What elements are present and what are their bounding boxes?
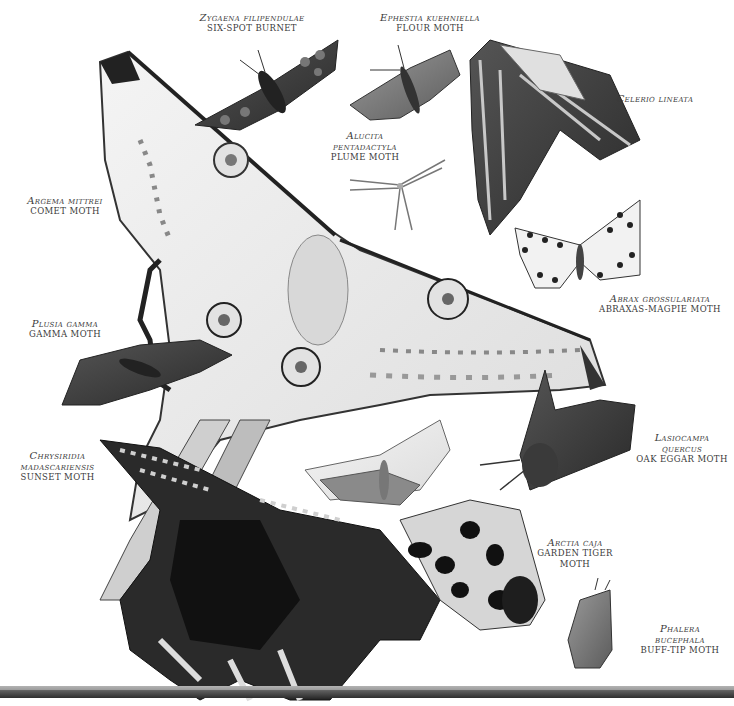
label-celerio-lineata: Celerio lineata xyxy=(595,93,715,104)
common-name: GAMMA MOTH xyxy=(15,329,115,340)
scientific-name: Alucita xyxy=(300,130,430,141)
label-argema-mittrei: Argema mittrei COMET MOTH xyxy=(10,195,120,217)
plume-moth xyxy=(350,160,445,230)
six-spot-burnet-moth xyxy=(195,40,338,130)
decorative-border-highlight xyxy=(0,686,734,690)
scientific-name: Abrax grossulariata xyxy=(590,293,730,304)
common-name: PLUME MOTH xyxy=(300,152,430,163)
label-abraxas-grossulariata: Abrax grossulariata ABRAXAS-MAGPIE MOTH xyxy=(590,293,730,315)
label-alucita-pentadactyla: Alucita pentadactyla PLUME MOTH xyxy=(300,130,430,163)
common-name: GARDEN TIGER xyxy=(530,548,620,559)
scientific-name-line-2: quercus xyxy=(630,443,734,454)
scientific-name-line-2: bucephala xyxy=(630,634,730,645)
scientific-name-line-2: pentadactyla xyxy=(300,141,430,152)
label-ephestia-kuehniella: Ephestia kuehniella FLOUR MOTH xyxy=(360,12,500,34)
buff-tip-moth xyxy=(568,578,612,668)
scientific-name: Celerio lineata xyxy=(595,93,715,104)
label-chrysiridia-madascariensis: Chrysiridia madascariensis SUNSET MOTH xyxy=(10,450,105,483)
common-name-line-2: MOTH xyxy=(530,559,620,570)
scientific-name: Lasiocampa xyxy=(630,432,734,443)
label-plusia-gamma: Plusia gamma GAMMA MOTH xyxy=(15,318,115,340)
scientific-name-line-2: madascariensis xyxy=(10,461,105,472)
common-name: SUNSET MOTH xyxy=(10,472,105,483)
scientific-name: Ephestia kuehniella xyxy=(360,12,500,23)
scientific-name: Plusia gamma xyxy=(15,318,115,329)
label-lasiocampa-quercus: Lasiocampa quercus OAK EGGAR MOTH xyxy=(630,432,734,465)
common-name: FLOUR MOTH xyxy=(360,23,500,34)
scientific-name: Argema mittrei xyxy=(10,195,120,206)
moth-illustrations xyxy=(0,0,734,706)
label-zygaena-filipendulae: Zygaena filipendulae SIX-SPOT BURNET xyxy=(182,12,322,34)
scientific-name: Phalera xyxy=(630,623,730,634)
scientific-name: Zygaena filipendulae xyxy=(182,12,322,23)
common-name: ABRAXAS-MAGPIE MOTH xyxy=(590,304,730,315)
label-phalera-bucephala: Phalera bucephala BUFF-TIP MOTH xyxy=(630,623,730,656)
celerio-lineata-moth xyxy=(470,40,640,235)
common-name: BUFF-TIP MOTH xyxy=(630,645,730,656)
moth-plate-illustration: Zygaena filipendulae SIX-SPOT BURNET Eph… xyxy=(0,0,734,706)
common-name: COMET MOTH xyxy=(10,206,120,217)
pale-moth xyxy=(305,420,450,505)
scientific-name: Chrysiridia xyxy=(10,450,105,461)
common-name: SIX-SPOT BURNET xyxy=(182,23,322,34)
flour-moth xyxy=(350,45,460,120)
common-name: OAK EGGAR MOTH xyxy=(630,454,734,465)
scientific-name: Arctia caja xyxy=(530,537,620,548)
magpie-moth xyxy=(515,200,640,288)
label-arctia-caja: Arctia caja GARDEN TIGER MOTH xyxy=(530,537,620,570)
